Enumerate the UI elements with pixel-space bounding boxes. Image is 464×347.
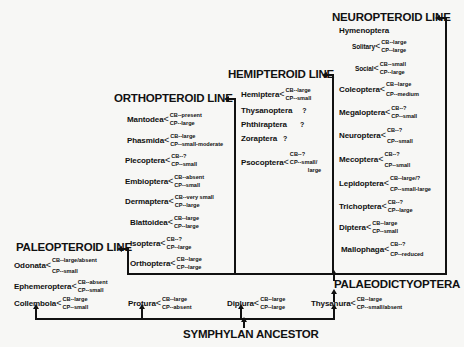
- neuropteroid-vertical: [445, 17, 447, 275]
- ancestor-baseline: [35, 318, 234, 320]
- taxon-dermaptera: Dermaptera< CB--very smallCP--large: [125, 193, 214, 209]
- branch-icon: <: [279, 90, 284, 99]
- winged-baseline: [127, 273, 446, 275]
- branch-icon: <: [164, 136, 169, 145]
- orthopteroid-vertical: [234, 98, 236, 275]
- taxon-zoraptera: Zoraptera?: [241, 134, 287, 143]
- taxon-psocoptera: Psocoptera< CB--?CP--small/large: [241, 150, 321, 174]
- taxon-diptera: Diptera< CB--largeCP--small: [339, 219, 398, 235]
- hemipteroid-vertical: [332, 74, 334, 275]
- taxon-thysanura: Thysanura< CB--largeCP--small/absent: [311, 295, 402, 311]
- branch-icon: <: [168, 218, 173, 227]
- taxon-hymenoptera: Hymenoptera: [339, 26, 389, 35]
- branch-icon: <: [156, 299, 161, 308]
- taxon-embioptera: Embioptera< CB--absentCP--small: [125, 173, 204, 189]
- neuropteroid-line-title: NEUROPTEROID LINE: [332, 11, 451, 23]
- branch-icon: <: [384, 179, 389, 188]
- taxon-blattoidea: Blattoidea< CB--largeCP--large: [130, 214, 199, 230]
- taxon-neuroptera: Neuroptera< CB--?CP--small: [339, 126, 413, 145]
- branch-icon: <: [168, 197, 173, 206]
- branch-icon: <: [381, 131, 386, 140]
- taxon-mecoptera: Mecoptera< CB--?CP--small: [339, 150, 410, 169]
- palaeodictyoptera-title: PALAEODICTYOPTERA: [334, 278, 460, 290]
- taxon-mallophaga: Mallophaga< CB--?CP--reduced: [341, 240, 424, 258]
- branch-icon: <: [284, 158, 289, 167]
- taxon-megaloptera: Megaloptera< CB--?CP--small: [339, 104, 417, 120]
- branch-icon: <: [384, 245, 389, 254]
- taxon-mantodea: Mantodea< CB--presentCP--large: [127, 111, 202, 127]
- branch-icon: <: [375, 42, 380, 51]
- taxon-ephemeroptera: Ephemeroptera< CB--absentCP--small: [14, 278, 108, 294]
- branch-icon: <: [385, 108, 390, 117]
- taxon-phthiraptera: Phthiraptera?: [241, 120, 304, 129]
- taxon-isoptera: Isoptera< CB--?CP--large: [130, 235, 191, 251]
- taxon-orthoptera: Orthoptera< CB--largeCP--large: [130, 255, 202, 271]
- taxon-collembola: Collembola< CB--largeCP--small: [14, 295, 88, 311]
- taxon-diplura: Diplura< CB--largeCP--large: [227, 295, 285, 311]
- branch-icon: <: [168, 177, 173, 186]
- taxon-plecoptera: Plecoptera< CB--?CP--small: [125, 152, 197, 168]
- taxon-thysanoptera: Thysanoptera?: [241, 106, 307, 115]
- branch-icon: <: [378, 155, 383, 164]
- taxon-coleoptera: Coleoptera< CB--largeCP--medium: [339, 80, 419, 98]
- branch-icon: <: [160, 239, 165, 248]
- taxon-hymenoptera-solitary: Solitary< CB--largeCP--large: [352, 38, 407, 54]
- branch-icon: <: [374, 64, 379, 73]
- branch-icon: <: [71, 282, 76, 291]
- branch-icon: <: [170, 259, 175, 268]
- symphylan-ancestor-title: SYMPHYLAN ANCESTOR: [183, 328, 319, 340]
- branch-icon: <: [254, 299, 259, 308]
- taxon-hemiptera: Hemiptera< CB--largeCP--small: [241, 86, 311, 102]
- taxon-hymenoptera-social: Social< CB--smallCP--large: [355, 60, 406, 76]
- ancestor-baseline-right: [234, 318, 334, 320]
- taxon-odonata: Odonata< CB--large/absentCP--small: [14, 256, 97, 275]
- branch-icon: <: [366, 223, 371, 232]
- taxon-trichoptera: Trichoptera< CB--?CP--large: [339, 198, 413, 214]
- paleopteroid-line-title: PALEOPTEROID LINE: [16, 241, 132, 253]
- branch-icon: <: [164, 115, 169, 124]
- branch-icon: <: [381, 202, 386, 211]
- taxon-lepidoptera: Lepidoptera< CB--large/?CP--small-large: [339, 174, 431, 193]
- branch-icon: <: [165, 156, 170, 165]
- hemipteroid-line-title: HEMIPTEROID LINE: [228, 68, 334, 80]
- taxon-phasmida: Phasmida< CB--largeCP--small-moderate: [127, 132, 223, 148]
- branch-icon: <: [380, 85, 385, 94]
- arrow-up-icon: [241, 317, 247, 322]
- taxon-protura: Protura< CB--largeCP--absent: [128, 295, 192, 311]
- orthopteroid-line-title: ORTHOPTEROID LINE: [114, 92, 233, 104]
- branch-icon: <: [56, 299, 61, 308]
- branch-icon: <: [46, 261, 51, 270]
- branch-icon: <: [351, 299, 356, 308]
